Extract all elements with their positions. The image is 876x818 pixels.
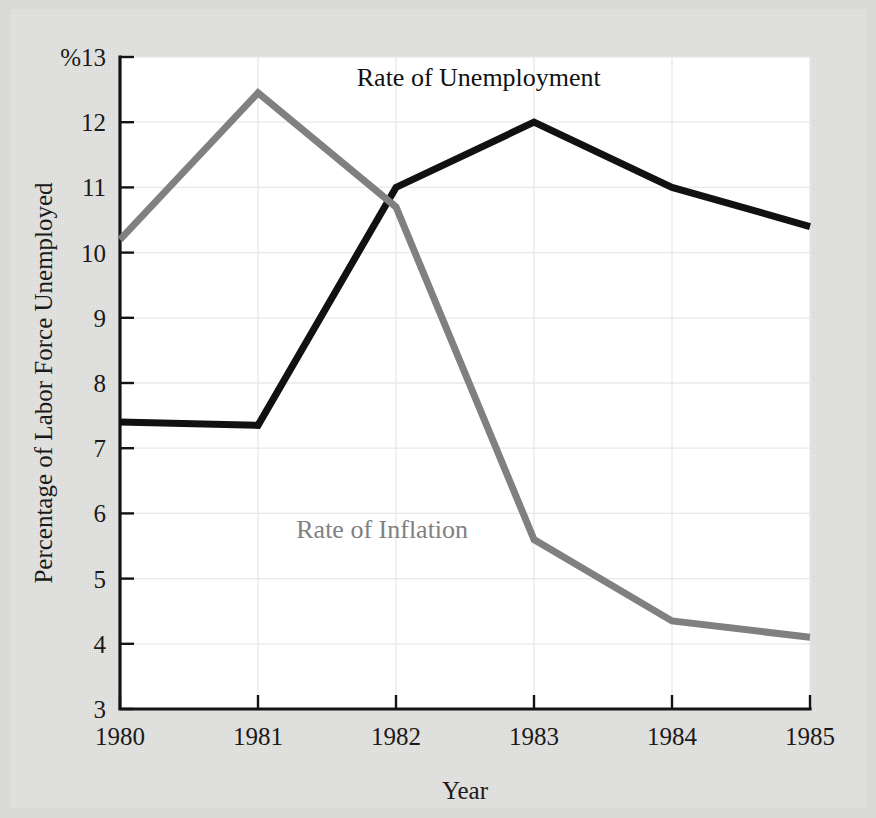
x-axis-tick-label: 1982: [371, 723, 421, 750]
y-axis-tick-label: 9: [94, 305, 107, 332]
y-axis-tick-label: 12: [81, 109, 106, 136]
x-axis-tick-label: 1981: [233, 723, 283, 750]
y-axis-tick-label: %13: [60, 44, 106, 71]
chart-container: 3456789101112%13198019811982198319841985…: [10, 9, 866, 809]
series-label-unemployment: Rate of Unemployment: [357, 63, 602, 92]
y-axis-tick-label: 4: [94, 631, 107, 658]
y-axis-tick-label: 11: [82, 174, 106, 201]
y-axis-tick-label: 6: [94, 500, 107, 527]
y-axis-title: Percentage of Labor Force Unemployed: [30, 182, 57, 584]
x-axis-tick-label: 1983: [509, 723, 559, 750]
x-axis-title: Year: [442, 777, 489, 804]
y-axis-tick-label: 3: [94, 696, 107, 723]
x-axis-tick-label: 1985: [785, 723, 835, 750]
y-axis-tick-label: 5: [94, 566, 107, 593]
y-axis-tick-label: 7: [94, 435, 107, 462]
x-axis-tick-label: 1980: [95, 723, 145, 750]
y-axis-tick-label: 8: [94, 370, 107, 397]
y-axis-tick-label: 10: [81, 240, 106, 267]
line-chart: 3456789101112%13198019811982198319841985…: [10, 9, 866, 809]
x-axis-tick-label: 1984: [647, 723, 698, 750]
figure-panel: 3456789101112%13198019811982198319841985…: [10, 9, 866, 809]
series-label-inflation: Rate of Inflation: [296, 515, 468, 544]
